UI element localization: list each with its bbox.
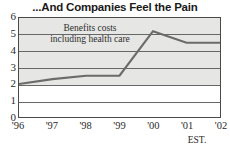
y-tick-label-4: 4 <box>0 45 16 56</box>
chart-title: ...And Companies Feel the Pain <box>0 1 230 14</box>
y-tick-label-1: 1 <box>0 95 16 106</box>
series-annotation: Benefits costs including health care <box>42 23 138 45</box>
x-tick-label-0: '96 <box>5 120 31 132</box>
x-tick-label-6: '02 <box>208 120 230 132</box>
x-tick-label-5: '01 <box>174 120 200 132</box>
x-axis-labels: '96'97'98'99'00'01'02 <box>18 120 221 134</box>
y-tick-label-5: 5 <box>0 28 16 39</box>
x-tick-label-1: '97 <box>39 120 65 132</box>
y-tick-label-2: 2 <box>0 78 16 89</box>
x-tick-label-4: '00 <box>140 120 166 132</box>
y-tick-label-6: 6 <box>0 11 16 22</box>
y-tick-label-3: 3 <box>0 62 16 73</box>
annotation-line-2: including health care <box>42 34 138 45</box>
x-tick-label-3: '99 <box>107 120 133 132</box>
y-axis-labels: 0123456 <box>0 17 16 118</box>
chart-figure: ...And Companies Feel the Pain 0123456 B… <box>0 0 230 159</box>
x-tick-label-2: '98 <box>73 120 99 132</box>
annotation-line-1: Benefits costs <box>42 23 138 34</box>
estimate-bracket: EST. <box>168 134 226 150</box>
estimate-label: EST. <box>168 135 226 146</box>
